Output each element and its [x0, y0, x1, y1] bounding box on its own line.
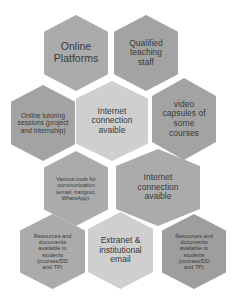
hex-qualified-teaching-staff: Qualified teaching staff	[114, 15, 178, 91]
hex-label: Online tutoring sessions (project and in…	[15, 112, 71, 135]
hex-extranet-email: Extranet & institutional email	[88, 212, 153, 289]
hexagon-diagram: Online Platforms Qualified teaching staf…	[0, 0, 238, 299]
hex-label: video capsules of some courses	[156, 100, 212, 138]
hex-online-platforms: Online Platforms	[44, 15, 108, 91]
hex-label: Various tools for communication (email, …	[48, 176, 104, 201]
hex-online-tutoring-sessions: Online tutoring sessions (project and in…	[11, 85, 75, 161]
hex-label: Internet connection avaible	[80, 107, 144, 136]
hex-video-capsules: video capsules of some courses	[152, 78, 216, 160]
hex-label: Qualified teaching staff	[118, 39, 174, 68]
hex-resources-documents-right: Resources and documents available to stu…	[162, 214, 226, 289]
hex-label: Extranet & institutional email	[92, 236, 149, 265]
hex-label: Resources and documents available to stu…	[24, 233, 81, 271]
hex-label: Online Platforms	[48, 41, 104, 65]
hex-internet-connection-2: Internet connection avaible	[116, 149, 200, 226]
hex-label: Resources and documents available to stu…	[166, 233, 222, 271]
hex-internet-connection-1: Internet connection avaible	[76, 81, 148, 161]
hex-label: Internet connection avaible	[120, 173, 196, 202]
